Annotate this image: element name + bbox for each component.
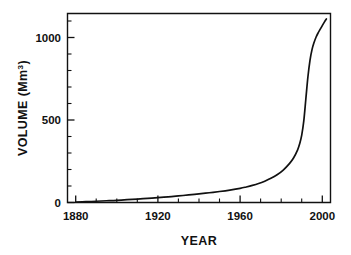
- x-tick-label-1920: 1920: [145, 210, 171, 222]
- volume-year-line-chart: 0 500 1000 1880 1920 1960 2000 YEAR VOLU…: [0, 0, 351, 255]
- y-axis-title: VOLUME (Mm3): [16, 60, 30, 156]
- y-axis-title-close: ): [16, 60, 30, 65]
- x-tick-label-2000: 2000: [310, 210, 336, 222]
- x-axis-title: YEAR: [181, 234, 217, 248]
- y-tick-label-0: 0: [55, 197, 61, 209]
- y-tick-label-500: 500: [42, 114, 61, 126]
- x-tick-label-1880: 1880: [63, 210, 89, 222]
- x-tick-label-1960: 1960: [227, 210, 253, 222]
- y-tick-label-1000: 1000: [35, 32, 61, 44]
- chart-page: 0 500 1000 1880 1920 1960 2000 YEAR VOLU…: [0, 0, 351, 255]
- y-axis-title-base: VOLUME (Mm: [16, 69, 30, 156]
